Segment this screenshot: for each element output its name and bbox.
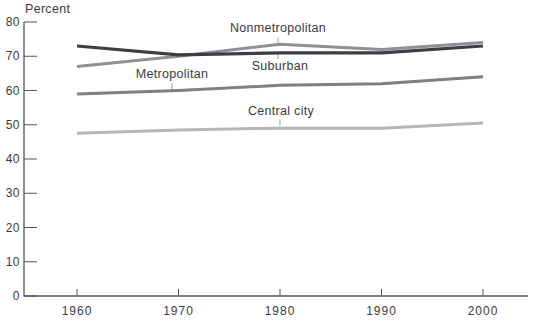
plot-canvas: 0102030405060708019601970198019902000: [0, 0, 537, 325]
y-tick-label: 60: [6, 84, 20, 98]
x-tick-label: 1960: [62, 304, 93, 318]
y-tick-label: 20: [6, 221, 20, 235]
y-tick-label: 40: [6, 152, 20, 166]
series-label-metropolitan: Metropolitan: [136, 67, 208, 81]
y-tick-label: 70: [6, 49, 20, 63]
homeownership-line-chart: 0102030405060708019601970198019902000 Pe…: [0, 0, 537, 325]
y-tick-label: 0: [13, 289, 20, 303]
x-tick-label: 2000: [468, 304, 499, 318]
y-tick-label: 50: [6, 118, 20, 132]
y-tick-label: 30: [6, 186, 20, 200]
x-tick-label: 1990: [366, 304, 397, 318]
series-label-nonmetropolitan: Nonmetropolitan: [230, 21, 326, 35]
y-tick-label: 10: [6, 255, 20, 269]
y-tick-label: 80: [6, 15, 20, 29]
series-label-suburban: Suburban: [252, 59, 309, 73]
series-label-central-city: Central city: [248, 104, 314, 118]
x-tick-label: 1970: [163, 304, 194, 318]
x-tick-label: 1980: [265, 304, 296, 318]
y-axis-title: Percent: [25, 2, 70, 16]
